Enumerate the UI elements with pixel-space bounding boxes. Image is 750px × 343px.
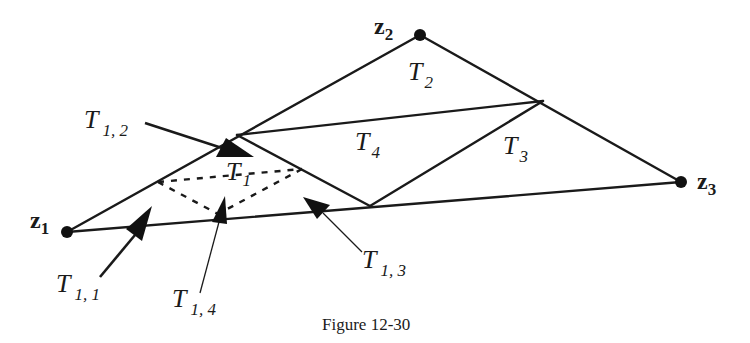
edge-mid12-mid13 bbox=[237, 135, 370, 206]
edge-z1-z3 bbox=[67, 182, 681, 232]
figure-caption: Figure 12-30 bbox=[322, 315, 410, 334]
label-z2: z2 bbox=[374, 13, 393, 44]
label-z3: z3 bbox=[697, 168, 716, 199]
label-T11: T1, 1 bbox=[56, 269, 100, 304]
vertex-z2-dot bbox=[414, 29, 426, 41]
arrowhead-icon bbox=[212, 196, 227, 224]
arrow-T14 bbox=[200, 196, 227, 293]
arrow-T13 bbox=[303, 197, 362, 252]
triangle-refinement-diagram: z1 z2 z3 T2 T3 T4 T1 bbox=[0, 0, 750, 343]
label-T3: T3 bbox=[503, 131, 528, 166]
arrow-T12 bbox=[145, 123, 254, 157]
label-T14: T1, 4 bbox=[172, 284, 216, 319]
subtriangle-labels: T1, 2 T1, 1 T1, 4 T1, 3 bbox=[56, 105, 406, 319]
vertex-z1-dot bbox=[61, 226, 73, 238]
midpoint-subdivision bbox=[237, 101, 543, 206]
label-T1: T1 bbox=[226, 157, 251, 190]
label-z1: z1 bbox=[30, 207, 49, 238]
dashed-edge-left bbox=[158, 182, 218, 214]
arrowhead-icon bbox=[126, 206, 152, 241]
vertex-z3-dot bbox=[675, 176, 687, 188]
arrow-T11 bbox=[100, 206, 152, 277]
triangle-labels: T2 T3 T4 T1 bbox=[226, 57, 528, 190]
label-T2: T2 bbox=[408, 57, 433, 92]
label-T13: T1, 3 bbox=[362, 245, 406, 280]
label-T12: T1, 2 bbox=[84, 105, 128, 140]
edge-z2-z3 bbox=[420, 35, 681, 182]
label-T4: T4 bbox=[355, 127, 380, 162]
